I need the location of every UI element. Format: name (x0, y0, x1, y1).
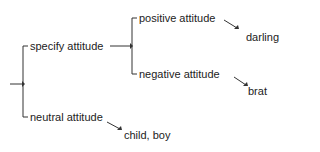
node-child-boy: child, boy (124, 129, 170, 141)
node-specify-attitude: specify attitude (30, 40, 103, 52)
node-brat: brat (248, 85, 267, 97)
node-darling: darling (246, 31, 279, 43)
node-positive-attitude: positive attitude (139, 12, 215, 24)
node-neutral-attitude: neutral attitude (30, 111, 103, 123)
node-negative-attitude: negative attitude (139, 68, 220, 80)
